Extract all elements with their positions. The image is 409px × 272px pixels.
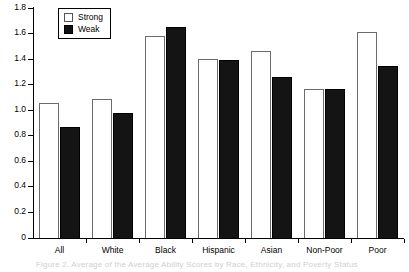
y-axis-tick-label: 1.2 — [0, 79, 26, 88]
y-axis-tick-label: 0.4 — [0, 181, 26, 190]
x-axis-label-black: Black — [139, 245, 192, 255]
x-axis-tick — [139, 239, 140, 243]
bar-white-weak — [113, 113, 133, 238]
x-axis-tick — [404, 239, 405, 243]
legend-item-weak: Weak — [64, 25, 103, 34]
y-axis-tick-label: 1.8 — [0, 3, 26, 12]
x-axis-label-hispanic: Hispanic — [192, 245, 245, 255]
bar-asian-strong — [251, 51, 271, 238]
bar-white-strong — [92, 99, 112, 238]
figure-caption-clipped: Figure 2. Average of the Average Ability… — [0, 262, 409, 272]
bar-asian-weak — [272, 77, 292, 238]
y-axis-tick-label: 1.6 — [0, 28, 26, 37]
bar-non-poor-weak — [325, 89, 345, 239]
x-axis-label-poor: Poor — [351, 245, 404, 255]
y-axis-tick-label: 0.6 — [0, 156, 26, 165]
chart-legend: Strong Weak — [58, 8, 111, 39]
bar-all-weak — [60, 127, 80, 238]
bar-hispanic-strong — [198, 59, 218, 238]
legend-item-strong: Strong — [64, 13, 103, 22]
y-axis-tick-label: 0.2 — [0, 207, 26, 216]
x-axis-label-all: All — [33, 245, 86, 255]
y-axis-tick-label: 0 — [0, 233, 26, 242]
figure-caption-text: Figure 2. Average of the Average Ability… — [36, 262, 358, 270]
x-axis-line — [33, 238, 404, 239]
bar-all-strong — [39, 103, 59, 238]
bar-non-poor-strong — [304, 89, 324, 239]
bar-poor-strong — [357, 32, 377, 238]
legend-label-weak: Weak — [78, 25, 100, 34]
bar-chart: 00.20.40.60.81.01.21.41.61.8 AllWhiteBla… — [0, 0, 409, 272]
y-axis-tick-label: 0.8 — [0, 130, 26, 139]
x-axis-tick — [298, 239, 299, 243]
bar-hispanic-weak — [219, 60, 239, 238]
x-axis-label-white: White — [86, 245, 139, 255]
bar-black-weak — [166, 27, 186, 238]
bar-poor-weak — [378, 66, 398, 239]
bar-black-strong — [145, 36, 165, 238]
bars-layer — [33, 8, 404, 238]
y-axis-tick-label: 1.0 — [0, 105, 26, 114]
x-axis-label-asian: Asian — [245, 245, 298, 255]
legend-label-strong: Strong — [78, 13, 103, 22]
y-axis-tick — [28, 238, 33, 239]
x-axis-tick — [86, 239, 87, 243]
x-axis-label-non-poor: Non-Poor — [298, 245, 351, 255]
x-axis-tick — [192, 239, 193, 243]
filled-square-icon — [64, 25, 73, 34]
y-axis-tick-label: 1.4 — [0, 54, 26, 63]
x-axis-tick — [245, 239, 246, 243]
hollow-square-icon — [64, 13, 73, 22]
x-axis-tick — [351, 239, 352, 243]
